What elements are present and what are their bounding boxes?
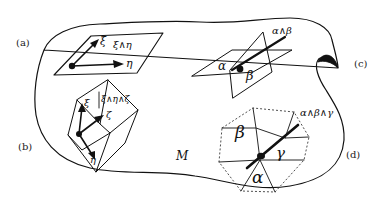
panel-b-parallelepiped: ξ ζ η ξ∧η∧ζ xyxy=(68,80,138,172)
wedge-label-a: ξ∧η xyxy=(113,39,132,50)
panel-d-cell: β γ α α∧β∧γ xyxy=(219,107,333,192)
vector-zeta-label: ζ xyxy=(106,109,112,120)
base-point-icon xyxy=(237,66,244,73)
vector-eta-label: η xyxy=(126,57,133,70)
intersection-line xyxy=(232,37,285,70)
wedge-label-c: α∧β xyxy=(272,25,292,36)
vector-xi-label: ξ xyxy=(84,97,90,108)
exterior-algebra-diagram: (a) (b) (c) (d) M ξ η ξ∧η ξ ζ η ξ∧η∧ζ xyxy=(0,0,384,220)
vector-eta-label: η xyxy=(90,154,96,165)
form-alpha-label: α xyxy=(252,167,264,187)
panel-c-intersecting-planes: α β α∧β xyxy=(192,25,292,98)
form-alpha-label: α xyxy=(218,59,226,73)
manifold-outline xyxy=(35,18,344,188)
manifold-label: M xyxy=(175,149,189,163)
vector-xi-label: ξ xyxy=(100,35,107,48)
form-gamma-label: γ xyxy=(276,144,285,162)
panel-label-c: (c) xyxy=(354,58,368,69)
panel-label-a: (a) xyxy=(16,37,30,48)
wedge-label-b: ξ∧η∧ζ xyxy=(101,94,131,104)
form-beta-label: β xyxy=(234,122,245,142)
form-beta-label: β xyxy=(245,68,254,83)
intersection-line xyxy=(247,125,298,168)
wedge-label-d: α∧β∧γ xyxy=(300,107,333,118)
panel-label-d: (d) xyxy=(346,149,360,160)
panel-label-b: (b) xyxy=(18,141,32,152)
base-point-icon xyxy=(257,153,265,159)
